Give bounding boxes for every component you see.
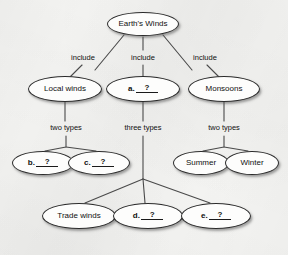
node-b-prefix: b. (28, 159, 36, 167)
node-c-prefix: c. (84, 159, 91, 167)
edge-root-to-monsoons (163, 35, 192, 70)
node-d-prefix: d. (133, 212, 141, 220)
edge-root-to-local (95, 35, 124, 70)
edge-label-include-right: include (193, 54, 217, 62)
node-winter-label: Winter (240, 159, 263, 167)
node-e-prefix: e. (201, 212, 208, 220)
node-local-label: Local winds (44, 85, 86, 93)
node-monsoons-label: Monsoons (206, 85, 243, 93)
edge-local-stub (70, 65, 82, 77)
node-winter[interactable]: Winter (225, 151, 279, 175)
node-a-answer-blank[interactable]: ? (136, 84, 158, 93)
node-b-answer-blank[interactable]: ? (36, 158, 58, 167)
node-summer-label: Summer (186, 159, 216, 167)
node-root-label: Earth's Winds (118, 20, 167, 28)
edge-label-two-types-left: two types (50, 124, 82, 132)
node-e[interactable]: e.? (181, 203, 251, 229)
edge-label-three-types: three types (124, 124, 161, 132)
node-c[interactable]: c.? (68, 151, 130, 175)
edge-left-split-b (45, 136, 66, 151)
edge-right-split-summer (203, 136, 224, 151)
node-d[interactable]: d.? (113, 203, 183, 229)
node-trade[interactable]: Trade winds (42, 203, 116, 229)
edge-label-include-center: include (131, 54, 155, 62)
node-local[interactable]: Local winds (28, 76, 102, 102)
node-b[interactable]: b.? (12, 151, 74, 175)
edge-label-include-left: include (71, 54, 95, 62)
edge-fan-trade (85, 179, 143, 203)
node-c-answer-blank[interactable]: ? (92, 158, 114, 167)
edge-label-two-types-right: two types (208, 124, 240, 132)
node-root[interactable]: Earth's Winds (107, 12, 179, 36)
node-e-answer-blank[interactable]: ? (209, 211, 231, 220)
node-a-prefix: a. (128, 85, 135, 93)
diagram-canvas: Earth's WindsLocal windsa.?Monsoonsb.?c.… (0, 0, 288, 255)
node-summer[interactable]: Summer (173, 151, 229, 175)
node-monsoons[interactable]: Monsoons (188, 76, 260, 102)
node-trade-label: Trade winds (57, 212, 100, 220)
edge-fan-d (143, 179, 145, 203)
edge-fan-e (143, 179, 210, 203)
node-d-answer-blank[interactable]: ? (141, 211, 163, 220)
node-a[interactable]: a.? (106, 76, 180, 102)
